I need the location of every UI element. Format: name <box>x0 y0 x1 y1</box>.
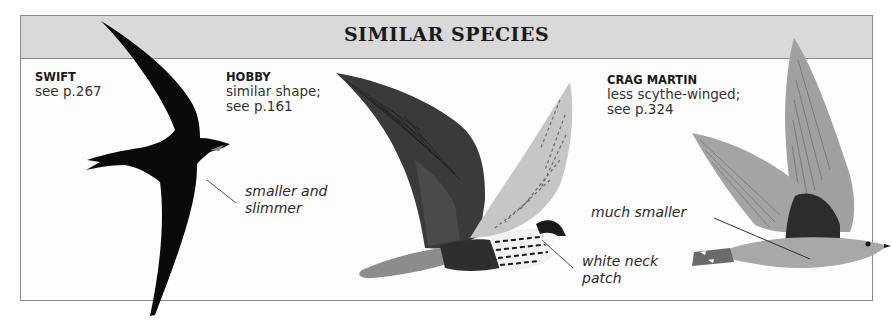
swift-note-pointer <box>207 180 236 203</box>
crag-martin-note: much smaller <box>591 204 686 221</box>
note-line: white neck <box>582 253 658 270</box>
species-description: less scythe-winged; <box>607 87 740 102</box>
species-description: see p.161 <box>226 99 321 114</box>
swift-note: smaller and slimmer <box>245 183 327 217</box>
species-hobby: HOBBY similar shape; see p.161 <box>226 70 321 114</box>
species-description: see p.324 <box>607 102 740 117</box>
species-name: HOBBY <box>226 70 321 84</box>
species-swift: SWIFT see p.267 <box>35 70 102 99</box>
note-line: much smaller <box>591 204 686 221</box>
species-name: SWIFT <box>35 70 102 84</box>
hobby-illustration <box>336 73 572 278</box>
note-line: smaller and <box>245 183 327 200</box>
species-description: similar shape; <box>226 84 321 99</box>
hobby-note: white neck patch <box>582 253 658 287</box>
species-name: CRAG MARTIN <box>607 73 740 87</box>
swift-illustration <box>86 21 230 316</box>
species-description: see p.267 <box>35 84 102 99</box>
bird-illustrations <box>0 0 892 322</box>
species-crag-martin: CRAG MARTIN less scythe-winged; see p.32… <box>607 73 740 117</box>
note-line: patch <box>582 270 658 287</box>
note-line: slimmer <box>245 200 327 217</box>
